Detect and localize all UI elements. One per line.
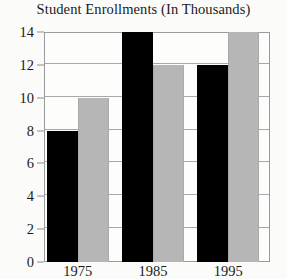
bar: [228, 32, 259, 262]
y-axis-tick-label: 2: [27, 222, 34, 237]
bar: [153, 65, 184, 262]
bar: [122, 32, 153, 262]
y-axis-tick-label: 8: [27, 123, 34, 138]
y-axis-tick-label: 10: [20, 90, 35, 105]
y-axis-tick-label: 4: [27, 189, 34, 204]
y-axis-tick-label: 12: [20, 58, 35, 73]
y-axis-tick-mark: [37, 32, 44, 33]
x-axis: 197519851995: [44, 263, 270, 279]
bar-chart: Student Enrollments (In Thousands) 02468…: [0, 0, 287, 279]
x-axis-tick-label: 1995: [214, 263, 243, 279]
y-axis-tick-mark: [37, 262, 44, 263]
y-axis-tick-mark: [37, 163, 44, 164]
y-axis-tick-mark: [37, 130, 44, 131]
y-axis-tick-mark: [37, 64, 44, 65]
x-axis-tick-label: 1975: [63, 263, 92, 279]
y-axis-tick-mark: [37, 97, 44, 98]
y-axis-tick-mark: [37, 229, 44, 230]
y-axis-tick-label: 6: [27, 156, 34, 171]
x-axis-tick-label: 1985: [139, 263, 168, 279]
y-axis-tick-label: 14: [20, 25, 35, 40]
y-axis: 02468101214: [0, 32, 44, 262]
chart-title: Student Enrollments (In Thousands): [0, 1, 287, 18]
y-axis-tick-mark: [37, 196, 44, 197]
bar: [78, 98, 109, 262]
bar: [197, 65, 228, 262]
y-axis-tick-label: 0: [27, 255, 34, 270]
bars-layer: [44, 32, 270, 262]
bar: [47, 131, 78, 262]
